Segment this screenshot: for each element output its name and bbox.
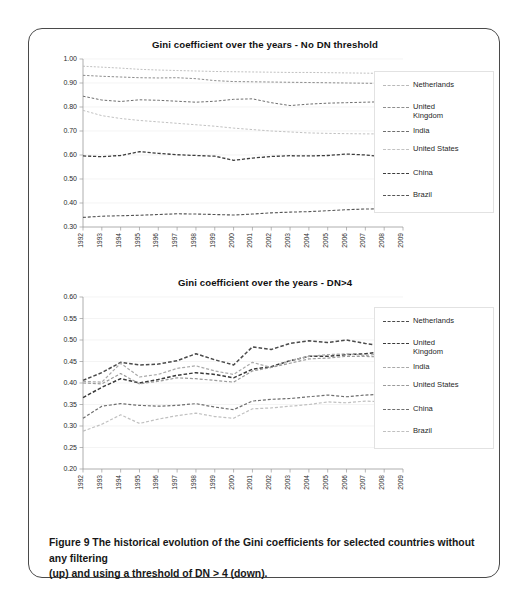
- svg-text:1995: 1995: [134, 475, 141, 490]
- svg-text:0.60: 0.60: [63, 151, 77, 158]
- svg-text:1994: 1994: [115, 233, 122, 248]
- figure-card: Gini coefficient over the years - No DN …: [28, 28, 500, 578]
- svg-text:1998: 1998: [190, 233, 197, 248]
- legend-item-india: India: [383, 362, 429, 371]
- svg-text:2005: 2005: [322, 233, 329, 248]
- legend-item-united-kingdom: United Kingdom: [383, 102, 443, 120]
- legend-item-brazil: Brazil: [383, 426, 432, 435]
- svg-text:0.80: 0.80: [63, 103, 77, 110]
- svg-text:0.90: 0.90: [63, 79, 77, 86]
- legend-item-united-kingdom: United Kingdom: [383, 338, 443, 356]
- legend-label: Brazil: [413, 190, 432, 199]
- legend-item-netherlands: Netherlands: [383, 80, 454, 89]
- svg-text:1996: 1996: [152, 233, 159, 248]
- svg-text:2005: 2005: [322, 475, 329, 490]
- legend-label: United States: [413, 144, 459, 153]
- svg-text:1995: 1995: [134, 233, 141, 248]
- svg-text:1999: 1999: [209, 233, 216, 248]
- caption-line-2: (up) and using a threshold of DN > 4 (do…: [49, 566, 487, 582]
- svg-text:2001: 2001: [246, 233, 253, 248]
- svg-text:1992: 1992: [77, 233, 84, 248]
- svg-text:2001: 2001: [246, 475, 253, 490]
- svg-text:0.55: 0.55: [63, 315, 77, 322]
- svg-text:0.50: 0.50: [63, 175, 77, 182]
- legend-swatch-line-icon: [383, 195, 409, 196]
- legend-label: Brazil: [413, 426, 432, 435]
- svg-text:0.30: 0.30: [63, 422, 77, 429]
- svg-text:0.40: 0.40: [63, 199, 77, 206]
- svg-text:2008: 2008: [378, 475, 385, 490]
- legend-top: NetherlandsUnited KingdomIndiaUnited Sta…: [374, 71, 494, 213]
- svg-text:2006: 2006: [341, 475, 348, 490]
- svg-text:2009: 2009: [397, 233, 404, 248]
- svg-text:1.00: 1.00: [63, 55, 77, 62]
- svg-text:0.60: 0.60: [63, 293, 77, 300]
- legend-swatch-line-icon: [383, 431, 409, 432]
- legend-item-united-states: United States: [383, 380, 459, 389]
- legend-swatch-line-icon: [383, 131, 409, 132]
- legend-swatch-line-icon: [383, 409, 409, 410]
- legend-label: India: [413, 126, 429, 135]
- svg-text:2009: 2009: [397, 475, 404, 490]
- svg-text:2004: 2004: [303, 475, 310, 490]
- plot-area-bottom: 0.200.250.300.350.400.450.500.550.601992…: [39, 291, 409, 531]
- chart-dn-gt-4: Gini coefficient over the years - DN>4 0…: [29, 277, 501, 535]
- legend-label: China: [413, 168, 433, 177]
- svg-text:2002: 2002: [265, 475, 272, 490]
- legend-label: Netherlands: [413, 316, 454, 325]
- legend-item-china: China: [383, 168, 433, 177]
- legend-swatch-line-icon: [383, 367, 409, 368]
- svg-text:1997: 1997: [171, 475, 178, 490]
- legend-item-brazil: Brazil: [383, 190, 432, 199]
- svg-text:1996: 1996: [152, 475, 159, 490]
- svg-text:1992: 1992: [77, 475, 84, 490]
- svg-text:2003: 2003: [284, 475, 291, 490]
- legend-label: China: [413, 404, 433, 413]
- svg-text:1998: 1998: [190, 475, 197, 490]
- legend-item-china: China: [383, 404, 433, 413]
- legend-item-netherlands: Netherlands: [383, 316, 454, 325]
- svg-text:1997: 1997: [171, 233, 178, 248]
- svg-text:1993: 1993: [96, 475, 103, 490]
- figure-caption: Figure 9 The historical evolution of the…: [49, 535, 487, 582]
- legend-label: United States: [413, 380, 459, 389]
- legend-swatch-line-icon: [383, 107, 409, 108]
- svg-text:0.30: 0.30: [63, 223, 77, 230]
- legend-swatch-line-icon: [383, 385, 409, 386]
- legend-swatch-line-icon: [383, 343, 409, 344]
- legend-swatch-line-icon: [383, 85, 409, 86]
- caption-line-1: Figure 9 The historical evolution of the…: [49, 535, 487, 566]
- svg-text:2000: 2000: [228, 475, 235, 490]
- legend-item-india: India: [383, 126, 429, 135]
- chart-no-dn-threshold: Gini coefficient over the years - No DN …: [29, 35, 501, 291]
- legend-label: United Kingdom: [413, 338, 443, 356]
- svg-text:2007: 2007: [359, 475, 366, 490]
- svg-text:2007: 2007: [359, 233, 366, 248]
- svg-text:1999: 1999: [209, 475, 216, 490]
- line-plot-top: 0.300.400.500.600.700.800.901.0019921993…: [39, 53, 409, 285]
- chart-title-top: Gini coefficient over the years - No DN …: [29, 39, 501, 50]
- svg-text:2008: 2008: [378, 233, 385, 248]
- legend-swatch-line-icon: [383, 173, 409, 174]
- legend-bottom: NetherlandsUnited KingdomIndiaUnited Sta…: [374, 307, 494, 449]
- legend-label: Netherlands: [413, 80, 454, 89]
- svg-text:2006: 2006: [341, 233, 348, 248]
- legend-swatch-line-icon: [383, 321, 409, 322]
- legend-swatch-line-icon: [383, 149, 409, 150]
- svg-text:0.35: 0.35: [63, 401, 77, 408]
- svg-text:1994: 1994: [115, 475, 122, 490]
- line-plot-bottom: 0.200.250.300.350.400.450.500.550.601992…: [39, 291, 409, 531]
- legend-label: United Kingdom: [413, 102, 443, 120]
- plot-area-top: 0.300.400.500.600.700.800.901.0019921993…: [39, 53, 409, 285]
- legend-item-united-states: United States: [383, 144, 459, 153]
- svg-text:0.45: 0.45: [63, 358, 77, 365]
- svg-text:2000: 2000: [228, 233, 235, 248]
- svg-text:0.50: 0.50: [63, 336, 77, 343]
- svg-text:2002: 2002: [265, 233, 272, 248]
- chart-title-bottom: Gini coefficient over the years - DN>4: [29, 277, 501, 288]
- svg-text:0.25: 0.25: [63, 444, 77, 451]
- svg-text:0.70: 0.70: [63, 127, 77, 134]
- svg-text:2003: 2003: [284, 233, 291, 248]
- legend-label: India: [413, 362, 429, 371]
- svg-text:1993: 1993: [96, 233, 103, 248]
